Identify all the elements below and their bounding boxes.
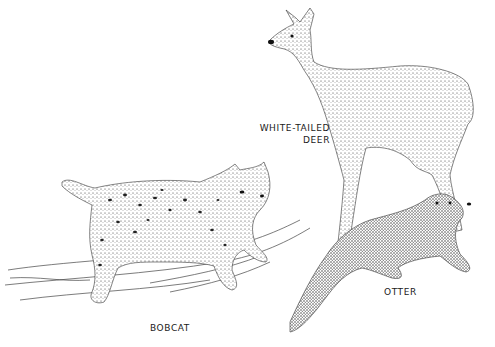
otter-label: OTTER	[384, 286, 417, 298]
illustration-canvas	[0, 0, 495, 347]
bobcat-label: BOBCAT	[150, 322, 190, 334]
otter-drawing	[290, 194, 471, 332]
wildlife-illustration: WHITE-TAILED DEER BOBCAT OTTER	[0, 0, 495, 347]
deer-nose	[268, 40, 274, 44]
deer-label-line2: DEER	[246, 134, 330, 146]
bobcat-drawing	[62, 162, 270, 303]
bobcat-eye	[240, 190, 245, 193]
deer-label-line1: WHITE-TAILED	[246, 122, 330, 134]
deer-label: WHITE-TAILED DEER	[246, 122, 330, 146]
